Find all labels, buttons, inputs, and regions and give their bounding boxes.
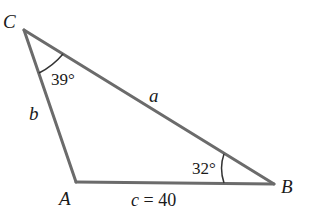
vertex-label-a: A bbox=[57, 188, 71, 209]
angle-arc-b bbox=[222, 154, 225, 183]
side-label-c: c = 40 bbox=[131, 190, 176, 210]
side-c bbox=[76, 182, 274, 184]
angle-label-c: 39° bbox=[51, 70, 75, 89]
side-a bbox=[24, 30, 274, 184]
side-label-a: a bbox=[149, 85, 159, 106]
side-label-b: b bbox=[29, 103, 39, 124]
triangle-diagram: C A B a b c = 40 39° 32° bbox=[0, 0, 310, 221]
vertex-label-c: C bbox=[3, 11, 16, 32]
angle-label-b: 32° bbox=[192, 159, 216, 178]
vertex-label-b: B bbox=[281, 176, 293, 197]
